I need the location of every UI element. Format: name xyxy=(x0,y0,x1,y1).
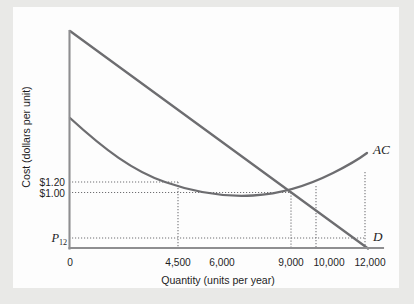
x-tick-label-12000: 12,000 xyxy=(354,257,385,268)
x-tick-label-0: 0 xyxy=(67,257,73,268)
x-axis-title: Quantity (units per year) xyxy=(161,274,275,286)
y-tick-label-1-00: $1.00 xyxy=(40,188,66,199)
demand-curve xyxy=(70,31,368,249)
d-curve-label: D xyxy=(372,229,383,244)
x-tick-label-10000: 10,000 xyxy=(313,257,344,268)
ac-curve-label: AC xyxy=(372,142,390,157)
average-cost-curve xyxy=(70,118,367,196)
y-tick-label-1-20: $1.20 xyxy=(40,177,66,188)
y-axis-title: Cost (dollars per unit) xyxy=(20,86,32,187)
x-tick-label-6000: 6,000 xyxy=(209,257,235,268)
economics-chart: Cost (dollars per unit) $1.20 $1.00 P 12… xyxy=(13,7,399,288)
figure-card: Cost (dollars per unit) $1.20 $1.00 P 12… xyxy=(13,7,399,288)
x-tick-label-9000: 9,000 xyxy=(278,257,304,268)
x-tick-label-4500: 4,500 xyxy=(165,257,191,268)
y-tick-label-p12-subscript: 12 xyxy=(59,238,67,247)
